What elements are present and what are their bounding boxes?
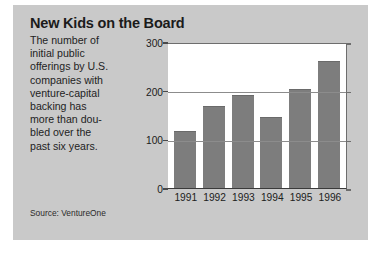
y-axis-tick-mark (163, 42, 168, 44)
gridline (168, 141, 346, 142)
bar (174, 131, 196, 188)
x-axis-labels: 199119921993199419951996 (168, 192, 347, 203)
bar-series (168, 44, 346, 188)
bar (289, 89, 311, 188)
source-note: Source: VentureOne (30, 208, 106, 218)
blurb-line: offerings by U.S. (30, 60, 126, 73)
y-axis-tick-mark (346, 141, 351, 143)
x-axis-tick-label: 1991 (174, 192, 196, 203)
blurb-line: The number of (30, 34, 126, 47)
y-axis-tick-mark (346, 43, 351, 45)
blurb-line: initial public (30, 47, 126, 60)
y-axis-tick-label: 100 (146, 135, 163, 146)
y-axis-tick-mark (346, 92, 351, 94)
x-axis-tick-label: 1996 (319, 192, 341, 203)
bar-chart: 0100200300 199119921993199419951996 (137, 43, 357, 218)
y-axis-tick-mark (163, 140, 168, 142)
y-axis-tick-mark (163, 188, 168, 190)
y-axis-tick-label: 200 (146, 86, 163, 97)
x-axis-tick-label: 1995 (290, 192, 312, 203)
x-axis-tick-label: 1992 (203, 192, 225, 203)
plot-area (168, 43, 347, 189)
blurb-line: more than dou- (30, 113, 126, 126)
bar (318, 61, 340, 188)
gridline (168, 92, 346, 93)
blurb-line: backing has (30, 100, 126, 113)
y-axis-tick-mark (346, 189, 351, 191)
blurb-line: venture-capital (30, 87, 126, 100)
blurb-line: bled over the (30, 126, 126, 139)
bar (260, 117, 282, 188)
figure-blurb: The number of initial public offerings b… (30, 34, 126, 153)
x-axis-tick-label: 1993 (232, 192, 254, 203)
figure-panel: New Kids on the Board The number of init… (13, 5, 368, 240)
y-axis-labels: 0100200300 (137, 43, 163, 189)
y-axis-tick-label: 300 (146, 38, 163, 49)
blurb-line: companies with (30, 74, 126, 87)
x-axis-tick-label: 1994 (261, 192, 283, 203)
bar (203, 106, 225, 188)
blurb-line: past six years. (30, 140, 126, 153)
y-axis-tick-mark (163, 91, 168, 93)
page-title: New Kids on the Board (30, 15, 185, 31)
